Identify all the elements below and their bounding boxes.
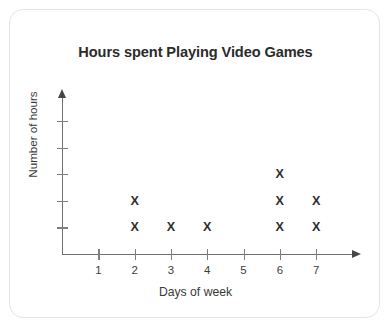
x-axis-tick [171, 249, 172, 260]
x-axis-tick-label: 3 [159, 264, 183, 276]
y-axis-title: Number of hours [26, 80, 39, 190]
y-axis-tick [57, 174, 68, 175]
x-axis-tick-label: 2 [123, 264, 147, 276]
data-point-marker: X [197, 219, 217, 235]
data-point-marker: X [270, 193, 290, 209]
data-point-marker: X [161, 219, 181, 235]
data-point-marker: X [125, 193, 145, 209]
y-axis-tick [57, 227, 68, 228]
y-axis-arrow-icon [58, 89, 66, 98]
x-axis-arrow-icon [352, 250, 361, 258]
x-axis-tick-label: 4 [195, 264, 219, 276]
data-point-marker: X [306, 193, 326, 209]
y-axis-tick [57, 121, 68, 122]
x-axis-tick [244, 249, 245, 260]
x-axis-title: Days of week [10, 285, 381, 299]
x-axis-tick [135, 249, 136, 260]
plot-area: Number of hours Days of week 1234567 XXX… [10, 10, 381, 319]
data-point-marker: X [306, 219, 326, 235]
x-axis-tick-label: 7 [304, 264, 328, 276]
x-axis-tick-label: 5 [232, 264, 256, 276]
x-axis-tick [316, 249, 317, 260]
y-axis-tick [57, 148, 68, 149]
data-point-marker: X [125, 219, 145, 235]
x-axis-tick-label: 6 [268, 264, 292, 276]
data-point-marker: X [270, 166, 290, 182]
chart-card: Hours spent Playing Video Games Number o… [9, 9, 380, 318]
x-axis-tick-label: 1 [86, 264, 110, 276]
x-axis-tick [207, 249, 208, 260]
x-axis-tick [98, 249, 99, 260]
y-axis-tick [57, 201, 68, 202]
y-axis-line [62, 96, 63, 255]
data-point-marker: X [270, 219, 290, 235]
x-axis-tick [280, 249, 281, 260]
